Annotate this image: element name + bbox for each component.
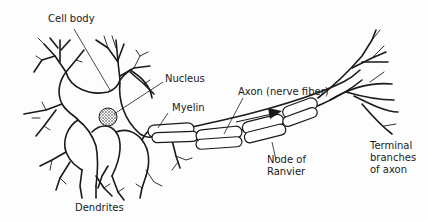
neuron-diagram: Cell body Nucleus Myelin Axon (nerve fib… — [0, 0, 428, 222]
label-terminal-line2: branches — [370, 152, 416, 163]
terminal-branches — [318, 30, 398, 134]
label-node-line1: Node of — [267, 154, 306, 165]
label-myelin: Myelin — [172, 102, 205, 113]
label-nucleus: Nucleus — [165, 73, 205, 84]
label-terminal-line3: of axon — [370, 164, 407, 175]
neuron-illustration: Cell body Nucleus Myelin Axon (nerve fib… — [0, 0, 428, 222]
nucleus — [99, 108, 117, 126]
label-terminal-line1: Terminal — [369, 140, 412, 151]
label-cell-body: Cell body — [48, 13, 95, 24]
label-axon: Axon (nerve fiber) — [238, 86, 329, 97]
label-node-line2: Ranvier — [267, 166, 306, 177]
label-dendrites: Dendrites — [75, 202, 124, 213]
